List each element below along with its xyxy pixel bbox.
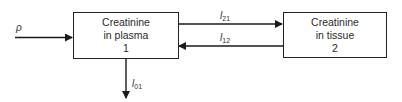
input-label: ρ	[16, 22, 22, 33]
compartment-1-line2: in plasma	[104, 29, 149, 42]
label-l01: l01	[132, 78, 142, 90]
compartment-1-number: 1	[123, 42, 129, 55]
compartment-2-line2: in tissue	[316, 29, 355, 42]
compartment-2-number: 2	[332, 42, 338, 55]
label-l12: l12	[220, 32, 230, 44]
l01-sub: 01	[134, 83, 142, 90]
compartment-1-line1: Creatinine	[102, 16, 150, 29]
compartment-plasma: Creatinine in plasma 1	[73, 12, 179, 59]
l21-sub: 21	[222, 15, 230, 22]
l12-sub: 12	[222, 37, 230, 44]
compartment-2-line1: Creatinine	[311, 16, 359, 29]
rho-symbol: ρ	[16, 22, 22, 33]
label-l21: l21	[220, 10, 230, 22]
compartment-tissue: Creatinine in tissue 2	[283, 12, 387, 58]
